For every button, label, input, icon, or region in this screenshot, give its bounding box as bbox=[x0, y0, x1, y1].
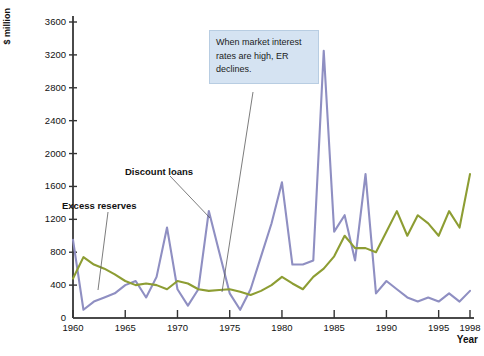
x-axis-title: Year bbox=[457, 334, 478, 345]
y-tick-label: 800 bbox=[32, 246, 66, 257]
x-tick-label: 1970 bbox=[160, 322, 194, 333]
data-series-lines bbox=[73, 51, 470, 310]
y-tick-label: 1200 bbox=[32, 213, 66, 224]
annotation-leader-lines bbox=[98, 92, 253, 292]
y-tick-label: 1600 bbox=[32, 180, 66, 191]
series-label-excess-reserves: Excess reserves bbox=[62, 200, 137, 211]
y-tick-label: 2400 bbox=[32, 115, 66, 126]
x-tick-label: 1975 bbox=[213, 322, 247, 333]
x-tick-label: 1980 bbox=[265, 322, 299, 333]
x-tick-label: 1965 bbox=[108, 322, 142, 333]
y-tick-label: 3600 bbox=[32, 16, 66, 27]
x-tick-label: 1985 bbox=[317, 322, 351, 333]
x-tick-label: 1990 bbox=[369, 322, 403, 333]
x-tick-label: 1960 bbox=[56, 322, 90, 333]
y-tick-label: 400 bbox=[32, 279, 66, 290]
chart-figure: $ million 360032002800240020001600120080… bbox=[0, 0, 484, 356]
y-tick-label: 3200 bbox=[32, 49, 66, 60]
callout-annotation: When market interest rates are high, ER … bbox=[209, 30, 319, 84]
series-label-discount-loans: Discount loans bbox=[125, 166, 193, 177]
y-tick-label: 2800 bbox=[32, 82, 66, 93]
y-tick-label: 2000 bbox=[32, 148, 66, 159]
y-axis-title: $ million bbox=[2, 8, 12, 45]
x-tick-label: 1998 bbox=[453, 322, 484, 333]
x-tick-label: 1995 bbox=[422, 322, 456, 333]
